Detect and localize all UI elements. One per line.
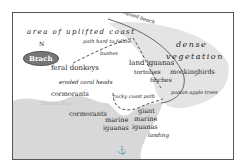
eroded-coral-label: eroded coral heads [59,80,112,86]
feral-donkeys-label: feral donkeys [51,65,99,72]
vegetation-label: vegetation [166,53,224,61]
landing-label: landing [148,133,169,139]
mockingbirds-label: mockingbirds [170,69,215,76]
giant-marine-label: marine [134,116,157,123]
tortoises-label: tortoises [134,69,161,75]
bushes-label: bushes [100,51,118,56]
giant-iguanas-label: iguanas [132,124,158,131]
uplifted-coast-label: area of uplifted coast [27,29,136,36]
path-hard-label: path hard to follow [83,39,131,44]
island-map: area of uplifted coast path hard to foll… [12,12,234,160]
poison-apple-label: poison apple trees [171,90,218,95]
dense-label: dense [176,41,207,49]
cormorants-top-label: cormorants [51,91,89,98]
finches-label: finches [150,77,172,83]
coast-faint-label: Darwin Bay [41,101,71,106]
land-iguanas-label: land iguanas [129,60,174,67]
marine-label: marine [105,117,128,124]
rocky-coast-path-label: rocky coast path [113,94,155,99]
cormorants-bottom-label: cormorants [69,111,107,118]
north-label: N [39,41,44,47]
giant-label: giant [138,108,155,115]
iguanas-label: iguanas [103,125,129,132]
anchor-icon: ⚓ [117,147,127,155]
